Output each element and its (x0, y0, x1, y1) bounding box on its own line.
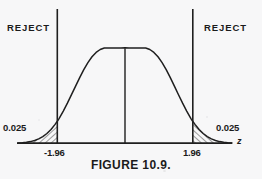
x-axis-tick-label-1-96: 1.96 (183, 147, 201, 158)
reject-region-label-left: REJECT (7, 22, 50, 33)
figure-caption: FIGURE 10.9. (0, 158, 262, 172)
tail-area-label-right: 0.025 (216, 122, 239, 133)
x-axis-tick-label-negative-1-96: -1.96 (44, 147, 65, 158)
figure-container: REJECT REJECT 0.025 0.025 -1.96 1.96 z F… (0, 0, 262, 179)
tail-area-label-left: 0.025 (3, 122, 26, 133)
reject-region-label-right: REJECT (204, 22, 247, 33)
x-axis-variable-label: z (237, 136, 242, 146)
